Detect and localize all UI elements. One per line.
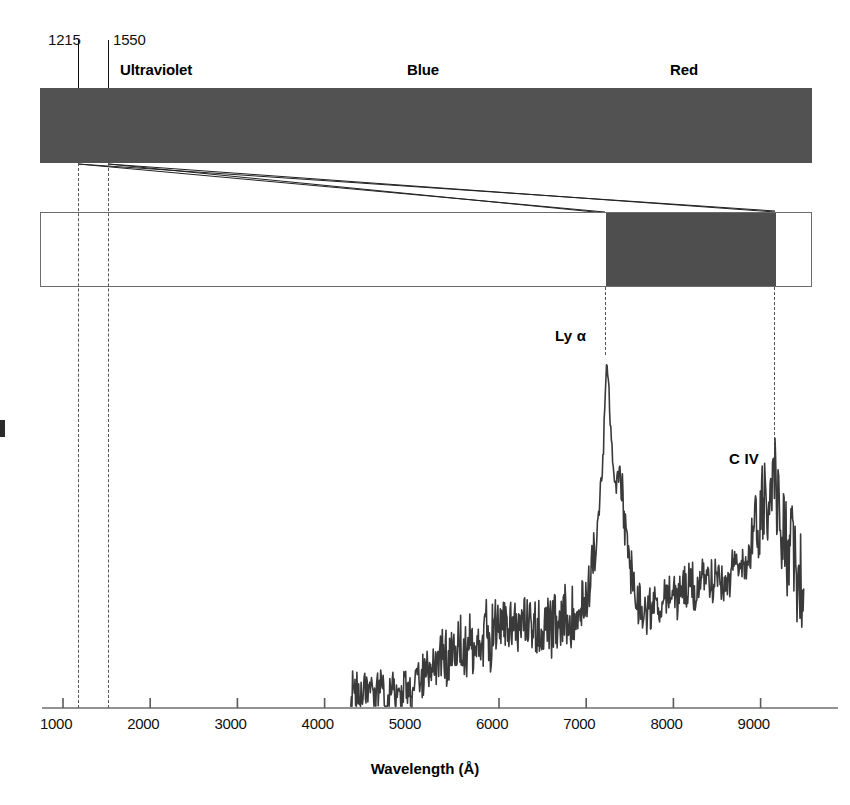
- observed-frame-spectrum-bar: [40, 212, 812, 287]
- observed-highlight-region: [606, 213, 776, 286]
- x-tick-2000: 2000: [127, 715, 159, 732]
- x-tick-7000: 7000: [563, 715, 595, 732]
- spectrum-plot: 100020003000400050006000700080009000: [0, 287, 850, 727]
- x-tick-4000: 4000: [302, 715, 334, 732]
- rest-tick-label-1215: 1215: [48, 31, 81, 48]
- x-tick-5000: 5000: [389, 715, 421, 732]
- rest-frame-spectrum-bar: [40, 88, 812, 163]
- x-axis: [42, 698, 838, 708]
- band-caption-ultraviolet: Ultraviolet: [120, 61, 192, 78]
- x-tick-3000: 3000: [214, 715, 246, 732]
- x-tick-9000: 9000: [738, 715, 770, 732]
- x-tick-1000: 1000: [40, 715, 72, 732]
- band-caption-blue: Blue: [407, 61, 439, 78]
- quasar-spectrum-figure: 1215 1550 Ultraviolet Blue Red Ly α C IV…: [0, 0, 850, 805]
- x-tick-8000: 8000: [650, 715, 682, 732]
- x-axis-title: Wavelength (Å): [0, 760, 850, 777]
- band-caption-red: Red: [670, 61, 698, 78]
- spectrum-trace-svg: [0, 287, 850, 727]
- spectrum-trace: [351, 365, 804, 707]
- rest-tick-label-1550: 1550: [113, 31, 146, 48]
- x-tick-6000: 6000: [476, 715, 508, 732]
